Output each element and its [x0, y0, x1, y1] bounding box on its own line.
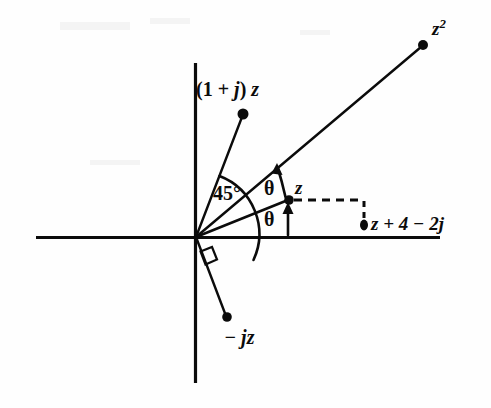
label-z: z	[295, 178, 302, 197]
point-marker-z	[284, 195, 294, 205]
label-one-plus-j-z-var: z	[251, 78, 259, 100]
right-angle-marker	[201, 247, 218, 265]
label-minus-jz: − jz	[224, 327, 254, 347]
label-z-squared: z^2z2	[432, 18, 446, 38]
complex-plane-diagram: (1 + j) z z^2z2 z z + 4 − 2j − jz 45° θ …	[0, 0, 491, 408]
point-marker-minus-jz	[222, 312, 232, 322]
label-z-plus-4-minus-2j: z + 4 − 2j	[371, 214, 444, 233]
label-one-plus-j-z: (1 + j) z	[196, 79, 259, 99]
label-theta-upper: θ	[264, 178, 274, 198]
point-marker-z-plus-4-minus-2j	[360, 220, 368, 231]
label-45-degrees: 45°	[213, 183, 241, 203]
label-one-plus-j-z-suffix: )	[240, 78, 252, 100]
point-marker-z-squared	[418, 40, 428, 50]
point-marker-one-plus-j-z	[238, 109, 249, 120]
label-z-squared-exponent: 2	[439, 16, 445, 31]
label-theta-lower: θ	[264, 209, 274, 229]
label-one-plus-j-z-prefix: (1 +	[196, 78, 234, 100]
ray-z-squared	[196, 47, 421, 237]
ray-minus-jz	[196, 237, 226, 316]
